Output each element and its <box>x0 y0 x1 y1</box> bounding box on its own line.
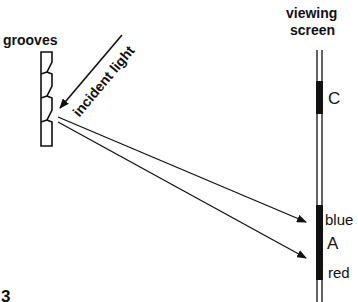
viewing-screen-label-line1: viewing <box>286 6 337 20</box>
region-a-label: A <box>327 235 338 252</box>
viewing-screen-label-line2: screen <box>290 23 335 37</box>
figure-number: 3 <box>1 288 10 302</box>
grooves-label: grooves <box>3 33 57 47</box>
screen-region-a-bar <box>316 205 323 280</box>
diffracted-rays <box>58 117 306 258</box>
diffracted-ray-blue <box>58 117 306 222</box>
diffraction-grating <box>41 52 52 146</box>
red-label: red <box>328 265 350 280</box>
screen-region-c-bar <box>316 81 323 114</box>
region-c-label: C <box>328 90 340 107</box>
diffracted-ray-red <box>58 122 306 258</box>
blue-label: blue <box>325 212 353 227</box>
